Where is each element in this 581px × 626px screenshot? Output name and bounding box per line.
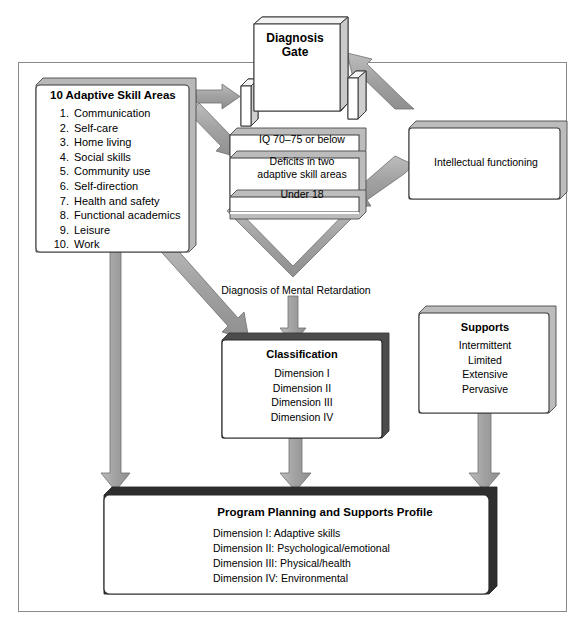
classification-list: Dimension I Dimension II Dimension III D… (222, 366, 382, 424)
list-item: Dimension III: Physical/health (213, 556, 390, 571)
list-item: Limited (420, 353, 550, 368)
list-item-number: 6. (50, 179, 74, 194)
list-item-number: 3. (50, 135, 74, 150)
criteria-deficits-line1: Deficits in two (238, 155, 366, 168)
supports-list: Intermittent Limited Extensive Pervasive (420, 338, 550, 396)
list-item-number: 5. (50, 164, 74, 179)
gate-label-line1: Diagnosis (252, 31, 338, 45)
list-item: Dimension II (222, 381, 382, 396)
list-item-label: Self-direction (74, 179, 180, 194)
list-item: 4. Social skills (50, 150, 180, 165)
list-item: 9. Leisure (50, 223, 180, 238)
list-item-label: Home living (74, 135, 180, 150)
list-item: 2. Self-care (50, 121, 180, 136)
list-item: Dimension IV: Environmental (213, 571, 390, 586)
list-item: 7. Health and safety (50, 194, 180, 209)
gate-label: Diagnosis Gate (252, 31, 338, 59)
list-item: Dimension II: Psychological/emotional (213, 541, 390, 556)
skill-areas-table: 1. Communication 2. Self-care 3. Home li… (50, 106, 180, 252)
list-item: Pervasive (420, 382, 550, 397)
list-item-label: Communication (74, 106, 180, 121)
list-item-number: 9. (50, 223, 74, 238)
criteria-iq-label: IQ 70–75 or below (238, 133, 366, 146)
classification-title: Classification (222, 348, 382, 360)
program-planning-list: Dimension I: Adaptive skills Dimension I… (213, 526, 390, 586)
arrow-skills-to-program (101, 245, 130, 491)
list-item: Intermittent (420, 338, 550, 353)
list-item: 6. Self-direction (50, 179, 180, 194)
criteria-deficits-label: Deficits in two adaptive skill areas (238, 155, 366, 181)
gate-post-right (348, 71, 366, 119)
list-item: Dimension I (222, 366, 382, 381)
diagram-canvas: 10 Adaptive Skill Areas 1. Communication… (0, 0, 581, 626)
list-item-label: Work (74, 237, 180, 252)
list-item-number: 2. (50, 121, 74, 136)
list-item: 1. Communication (50, 106, 180, 121)
criteria-age-label: Under 18 (238, 188, 366, 201)
list-item-label: Leisure (74, 223, 180, 238)
list-item: Dimension I: Adaptive skills (213, 526, 390, 541)
list-item: Dimension IV (222, 410, 382, 425)
arrow-supports-to-program (469, 413, 500, 491)
diagnosis-outcome-label: Diagnosis of Mental Retardation (196, 284, 396, 296)
intellectual-functioning-label: Intellectual functioning (408, 156, 564, 168)
list-item: Dimension III (222, 395, 382, 410)
supports-title: Supports (420, 321, 550, 333)
list-item: 8. Functional academics (50, 208, 180, 223)
skill-areas-list: 1. Communication 2. Self-care 3. Home li… (50, 106, 180, 252)
list-item-number: 8. (50, 208, 74, 223)
list-item-number: 7. (50, 194, 74, 209)
arrow-skills-to-gate (196, 84, 240, 109)
criteria-deficits-line2: adaptive skill areas (238, 168, 366, 181)
skill-areas-title: 10 Adaptive Skill Areas (50, 89, 176, 101)
gate-label-line2: Gate (252, 45, 338, 59)
arrow-classification-to-program (280, 438, 311, 491)
list-item-label: Self-care (74, 121, 180, 136)
list-item-number: 4. (50, 150, 74, 165)
list-item-label: Functional academics (74, 208, 180, 223)
list-item-number: 10. (50, 237, 74, 252)
list-item: Extensive (420, 367, 550, 382)
list-item: 5. Community use (50, 164, 180, 179)
list-item-label: Social skills (74, 150, 180, 165)
list-item-number: 1. (50, 106, 74, 121)
program-planning-title: Program Planning and Supports Profile (160, 506, 490, 518)
list-item: 10. Work (50, 237, 180, 252)
list-item: 3. Home living (50, 135, 180, 150)
list-item-label: Community use (74, 164, 180, 179)
list-item-label: Health and safety (74, 194, 180, 209)
